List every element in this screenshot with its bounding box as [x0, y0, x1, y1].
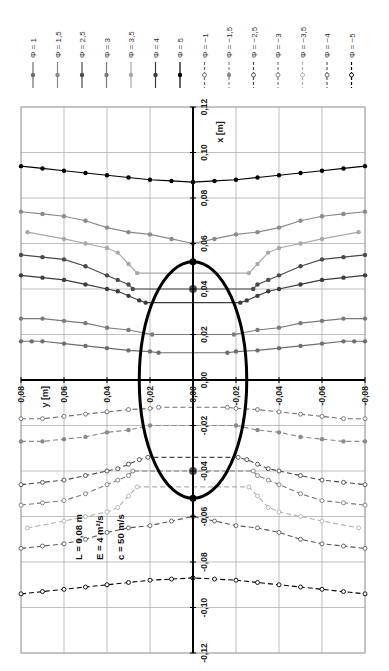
legend-item: Φ = −1 — [201, 33, 210, 88]
legend-label: Φ = 2,5 — [78, 31, 87, 58]
x-tick-label: -0,08 — [199, 552, 209, 572]
x-tick-label: 0,06 — [199, 235, 209, 252]
legend-item: Φ = 3,5 — [127, 31, 136, 88]
legend-label: Φ = 1,5 — [54, 31, 63, 58]
y-tick-label: 0,02 — [145, 386, 155, 403]
legend-item: Φ = 3 — [103, 38, 112, 89]
legend-label: Φ = −3 — [274, 33, 283, 58]
legend-item: Φ = 1 — [29, 38, 38, 89]
y-tick-label: 0,06 — [59, 386, 69, 403]
x-axis-title: x [m] — [215, 121, 225, 143]
legend-item: Φ = 4 — [152, 38, 161, 89]
annotation-L: L = 0,08 m — [73, 514, 84, 560]
legend-label: Φ = 4 — [152, 38, 161, 59]
y-tick-label: 0,08 — [16, 386, 26, 403]
axes: 0,120,100,080,060,040,020,00-0,02-0,04-0… — [16, 98, 370, 662]
legend-item: Φ = 2,5 — [78, 31, 87, 88]
legend-item: Φ = 1,5 — [54, 31, 63, 88]
legend-item: Φ = −1,5 — [225, 26, 234, 88]
x-tick-label: 0,04 — [199, 280, 209, 297]
y-tick-label: -0,06 — [317, 386, 327, 406]
legend-label: Φ = −3,5 — [299, 26, 308, 58]
legend-label: Φ = 5 — [176, 38, 185, 59]
legend-item: Φ = −5 — [348, 33, 357, 88]
parameter-annotation: L = 0,08 m E = 4 m²/s c = 50 m/s — [73, 514, 126, 560]
legend-label: Φ = −4 — [323, 33, 332, 58]
y-tick-label: 0,00 — [188, 386, 198, 403]
annotation-c: c = 50 m/s — [115, 514, 126, 560]
y-axis-title: y [m] — [40, 386, 50, 408]
legend: Φ = 1Φ = 1,5Φ = 2,5Φ = 3Φ = 3,5Φ = 4Φ = … — [29, 26, 357, 88]
legend-label: Φ = 1 — [29, 38, 38, 59]
x-tick-label: -0,10 — [199, 598, 209, 618]
x-tick-label: -0,12 — [199, 643, 209, 663]
legend-item: Φ = −3,5 — [299, 26, 308, 88]
annotation-E: E = 4 m²/s — [94, 515, 105, 560]
rotated-line-chart: Φ = 1Φ = 1,5Φ = 2,5Φ = 3Φ = 3,5Φ = 4Φ = … — [0, 0, 389, 671]
legend-label: Φ = −1,5 — [225, 26, 234, 58]
y-tick-label: 0,04 — [102, 386, 112, 403]
x-tick-label: 0,12 — [199, 98, 209, 115]
y-tick-label: -0,04 — [274, 386, 284, 406]
x-tick-label: 0,02 — [199, 326, 209, 343]
x-tick-label: 0,00 — [199, 371, 209, 388]
legend-label: Φ = 3 — [103, 38, 112, 59]
y-tick-label: -0,02 — [231, 386, 241, 406]
legend-item: Φ = −3 — [274, 33, 283, 88]
x-tick-label: -0,06 — [199, 507, 209, 527]
legend-item: Φ = 5 — [176, 38, 185, 89]
x-tick-label: -0,04 — [199, 461, 209, 481]
x-tick-label: 0,08 — [199, 189, 209, 206]
legend-label: Φ = −5 — [348, 33, 357, 58]
y-tick-label: -0,08 — [360, 386, 370, 406]
legend-label: Φ = 3,5 — [127, 31, 136, 58]
legend-label: Φ = −1 — [201, 33, 210, 58]
x-tick-label: 0,10 — [199, 144, 209, 161]
legend-label: Φ = −2,5 — [250, 26, 259, 58]
legend-item: Φ = −4 — [323, 33, 332, 88]
legend-item: Φ = −2,5 — [250, 26, 259, 88]
x-tick-label: -0,02 — [199, 416, 209, 436]
